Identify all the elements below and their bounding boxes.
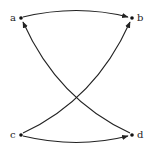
node-b: [130, 16, 134, 20]
edge-d-to-a: [23, 22, 130, 133]
node-c: [19, 133, 23, 137]
edge-c-to-d: [23, 136, 128, 143]
label-a: a: [10, 12, 16, 23]
graph-diagram: a b c d: [0, 0, 163, 150]
node-d: [130, 133, 134, 137]
edge-c-to-b: [23, 22, 130, 133]
label-b: b: [137, 12, 143, 23]
label-d: d: [137, 129, 144, 140]
label-c: c: [10, 129, 16, 140]
node-a: [19, 16, 23, 20]
edge-a-to-b: [23, 11, 128, 18]
